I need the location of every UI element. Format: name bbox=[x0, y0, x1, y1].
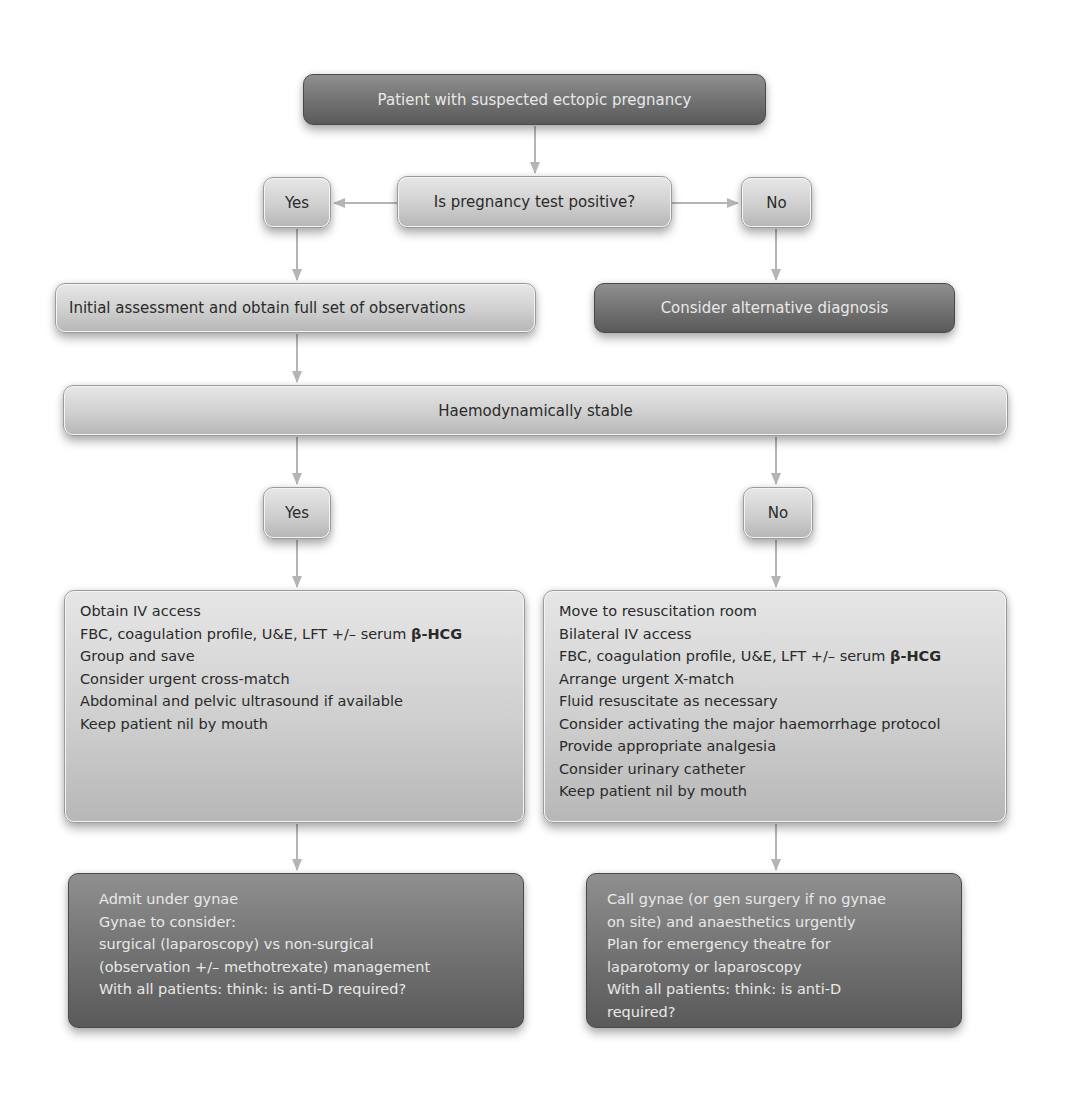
q1-yes-node: Yes bbox=[263, 177, 331, 228]
stable-outcome-item: Gynae to consider: bbox=[99, 911, 523, 934]
stable-no-node: No bbox=[743, 487, 813, 539]
stable-yes-label: Yes bbox=[285, 504, 309, 522]
stable-no-label: No bbox=[768, 504, 788, 522]
q1-yes-label: Yes bbox=[285, 194, 309, 212]
unstable-outcome-item: Plan for emergency theatre for bbox=[607, 933, 961, 956]
unstable-action-item: Fluid resuscitate as necessary bbox=[559, 690, 1005, 713]
unstable-action-item: Move to resuscitation room bbox=[559, 600, 1005, 623]
unstable-action-item: Consider activating the major haemorrhag… bbox=[559, 713, 1005, 736]
unstable-action-item: Keep patient nil by mouth bbox=[559, 780, 1005, 803]
stable-outcome-box: Admit under gynae Gynae to consider: sur… bbox=[68, 873, 524, 1028]
stable-outcome-item: (observation +/– methotrexate) managemen… bbox=[99, 956, 523, 979]
initial-assessment-node: Initial assessment and obtain full set o… bbox=[55, 283, 536, 333]
stable-action-item: Obtain IV access bbox=[80, 600, 523, 623]
unstable-outcome-item: on site) and anaesthetics urgently bbox=[607, 911, 961, 934]
start-node: Patient with suspected ectopic pregnancy bbox=[303, 74, 766, 125]
unstable-action-item: Consider urinary catheter bbox=[559, 758, 1005, 781]
unstable-actions-box: Move to resuscitation room Bilateral IV … bbox=[543, 590, 1007, 823]
unstable-action-item: FBC, coagulation profile, U&E, LFT +/– s… bbox=[559, 645, 1005, 668]
stable-outcome-item: surgical (laparoscopy) vs non-surgical bbox=[99, 933, 523, 956]
unstable-outcome-item: required? bbox=[607, 1001, 961, 1024]
stable-action-item: Abdominal and pelvic ultrasound if avail… bbox=[80, 690, 523, 713]
initial-assessment-label: Initial assessment and obtain full set o… bbox=[69, 299, 466, 317]
unstable-action-item: Bilateral IV access bbox=[559, 623, 1005, 646]
stable-action-item: Group and save bbox=[80, 645, 523, 668]
haemodynamic-node: Haemodynamically stable bbox=[63, 385, 1008, 436]
stable-outcome-item: Admit under gynae bbox=[99, 888, 523, 911]
unstable-action-item: Arrange urgent X-match bbox=[559, 668, 1005, 691]
stable-yes-node: Yes bbox=[263, 487, 331, 539]
stable-action-item: FBC, coagulation profile, U&E, LFT +/– s… bbox=[80, 623, 523, 646]
question-label: Is pregnancy test positive? bbox=[434, 193, 636, 211]
unstable-outcome-item: laparotomy or laparoscopy bbox=[607, 956, 961, 979]
q1-no-label: No bbox=[766, 194, 786, 212]
stable-action-item: Consider urgent cross-match bbox=[80, 668, 523, 691]
unstable-outcome-item: With all patients: think: is anti-D bbox=[607, 978, 961, 1001]
alternative-diagnosis-label: Consider alternative diagnosis bbox=[661, 299, 889, 317]
start-label: Patient with suspected ectopic pregnancy bbox=[378, 91, 692, 109]
unstable-outcome-item: Call gynae (or gen surgery if no gynae bbox=[607, 888, 961, 911]
haemodynamic-label: Haemodynamically stable bbox=[438, 402, 633, 420]
alternative-diagnosis-node: Consider alternative diagnosis bbox=[594, 283, 955, 333]
beta-hcg: β-HCG bbox=[890, 648, 941, 664]
unstable-action-item: Provide appropriate analgesia bbox=[559, 735, 1005, 758]
unstable-outcome-box: Call gynae (or gen surgery if no gynae o… bbox=[586, 873, 962, 1028]
stable-outcome-item: With all patients: think: is anti-D requ… bbox=[99, 978, 523, 1001]
beta-hcg: β-HCG bbox=[411, 626, 462, 642]
question-pregnancy-test: Is pregnancy test positive? bbox=[397, 176, 672, 228]
stable-action-item: Keep patient nil by mouth bbox=[80, 713, 523, 736]
stable-actions-box: Obtain IV access FBC, coagulation profil… bbox=[64, 590, 525, 823]
q1-no-node: No bbox=[741, 177, 812, 228]
